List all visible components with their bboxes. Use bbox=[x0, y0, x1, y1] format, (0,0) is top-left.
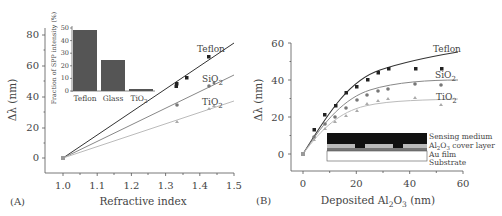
b-inset-schematic: Sensing medium Al2O3 cover layer Au film… bbox=[327, 132, 495, 167]
a-inset-y-label: Fraction of SPP intensity (%) bbox=[50, 12, 58, 105]
b-xtick: 0 bbox=[300, 178, 306, 189]
layer-label: Substrate bbox=[429, 158, 467, 167]
b-teflon-point bbox=[323, 113, 327, 117]
b-teflon-point bbox=[414, 67, 418, 71]
svg-text:10: 10 bbox=[61, 74, 69, 82]
a-ytick: 0 bbox=[33, 152, 39, 163]
b-ytick: 60 bbox=[271, 38, 284, 49]
a-teflon-label: Teflon bbox=[197, 44, 225, 54]
a-xtick: 1.3 bbox=[158, 180, 174, 191]
b-teflon-point bbox=[387, 67, 391, 71]
layer-au-film bbox=[327, 148, 427, 151]
panel-a: 80 60 40 20 0 1.0 1.1 1.2 1.3 1.4 1.5 Re… bbox=[6, 12, 242, 207]
layer-substrate bbox=[327, 151, 427, 161]
b-tio2-point bbox=[376, 99, 380, 102]
b-sio2-point bbox=[365, 93, 369, 97]
b-sio2-point bbox=[413, 82, 417, 86]
a-ytick: 40 bbox=[26, 91, 39, 102]
figure: 80 60 40 20 0 1.0 1.1 1.2 1.3 1.4 1.5 Re… bbox=[0, 0, 502, 216]
inset-cat: TiO2 bbox=[130, 94, 147, 104]
b-sio2-point bbox=[344, 106, 348, 110]
a-origin-marker bbox=[61, 156, 65, 160]
b-y-label: Δλ (nm) bbox=[252, 79, 264, 122]
b-tio2-point bbox=[365, 102, 369, 105]
a-sio2-point bbox=[207, 84, 211, 88]
b-tio2-point bbox=[413, 96, 417, 99]
b-ytick: 20 bbox=[271, 112, 284, 123]
b-sio2-point bbox=[355, 98, 359, 102]
a-xtick: 1.4 bbox=[192, 180, 208, 191]
svg-text:50: 50 bbox=[61, 24, 69, 32]
b-ytick: 40 bbox=[271, 75, 284, 86]
b-tio2-point bbox=[355, 109, 359, 112]
layer-al2o3-cover bbox=[327, 144, 427, 148]
a-inset-bar-chart: 50 40 30 20 10 0 Fraction of SPP intensi… bbox=[50, 12, 155, 105]
svg-text:40: 40 bbox=[61, 37, 69, 45]
a-x-label: Refractive index bbox=[99, 195, 186, 207]
a-teflon-point bbox=[207, 55, 211, 59]
b-teflon-point bbox=[313, 128, 317, 132]
layer-sensing-medium bbox=[327, 133, 427, 144]
a-ytick: 20 bbox=[26, 122, 39, 133]
b-sio2-label: SiO2 bbox=[435, 70, 456, 83]
svg-text:30: 30 bbox=[61, 49, 69, 57]
b-sio2-point bbox=[439, 83, 443, 87]
b-sio2-point bbox=[386, 87, 390, 91]
b-teflon-label: Teflon bbox=[433, 44, 461, 54]
inset-cat: Teflon bbox=[73, 94, 96, 103]
b-ytick: 0 bbox=[278, 149, 284, 160]
b-origin-marker bbox=[301, 152, 305, 156]
a-panel-label: (A) bbox=[10, 196, 25, 207]
b-sio2-point bbox=[376, 89, 380, 93]
inset-bar-glass bbox=[101, 60, 125, 91]
b-sio2-point bbox=[323, 122, 327, 126]
b-teflon-point bbox=[334, 104, 338, 108]
a-teflon-point bbox=[185, 76, 189, 80]
svg-text:20: 20 bbox=[61, 62, 69, 70]
b-tio2-point bbox=[386, 97, 390, 100]
b-teflon-point bbox=[377, 71, 381, 75]
inset-bar-teflon bbox=[73, 30, 97, 91]
b-tio2-label: TiO2 bbox=[436, 92, 457, 105]
a-ytick: 60 bbox=[26, 60, 39, 71]
svg-text:0: 0 bbox=[65, 87, 69, 95]
a-ytick: 80 bbox=[26, 29, 39, 40]
layer-label: Sensing medium bbox=[429, 132, 492, 141]
a-xtick: 1.2 bbox=[123, 180, 139, 191]
a-xtick: 1.0 bbox=[55, 180, 71, 191]
a-y-label: Δλ (nm) bbox=[6, 79, 18, 122]
a-sio2-point bbox=[175, 103, 179, 107]
a-xtick: 1.1 bbox=[89, 180, 105, 191]
b-xtick: 60 bbox=[457, 178, 470, 189]
b-panel-label: (B) bbox=[256, 195, 271, 206]
b-tio2-point bbox=[439, 103, 443, 106]
b-x-label: Deposited Al2O3 (nm) bbox=[321, 194, 435, 209]
b-teflon-point bbox=[345, 91, 349, 95]
inset-bar-tio2 bbox=[129, 89, 153, 91]
b-teflon-point bbox=[355, 85, 359, 89]
b-teflon-point bbox=[366, 78, 370, 82]
b-xtick: 20 bbox=[350, 178, 363, 189]
b-sio2-point bbox=[333, 115, 337, 119]
inset-cat: Glass bbox=[103, 94, 124, 103]
panel-b: 60 40 20 0 0 20 40 60 Deposited Al2O3 (n… bbox=[252, 38, 495, 209]
a-teflon-point bbox=[175, 85, 179, 89]
a-xtick: 1.5 bbox=[226, 180, 242, 191]
b-xtick: 40 bbox=[403, 178, 416, 189]
